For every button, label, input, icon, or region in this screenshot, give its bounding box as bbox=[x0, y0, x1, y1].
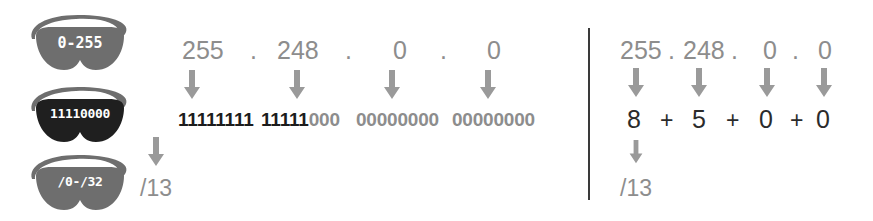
binary-bits-off-4: 00000000 bbox=[452, 109, 535, 130]
binary-bits-off-3: 00000000 bbox=[356, 109, 439, 130]
left-binary-octet-1: 11111111 bbox=[178, 110, 254, 129]
binary-bits-on-1: 11111111 bbox=[178, 109, 254, 130]
arrow-down-icon-octet-1 bbox=[182, 70, 202, 100]
panel-divider bbox=[588, 28, 590, 200]
arrow-down-icon-right-octet-2 bbox=[689, 68, 709, 98]
arrow-down-icon-right-octet-4 bbox=[814, 68, 834, 98]
goggles-icon-decimal-range: 0-255 bbox=[24, 12, 136, 74]
goggles-icon-binary: 11110000 bbox=[24, 84, 136, 146]
right-mask-separator-2: . bbox=[731, 38, 738, 63]
right-bit-count-3: 0 bbox=[759, 107, 773, 132]
goggles-label-prefix: /0-/32 bbox=[24, 174, 136, 189]
binary-bits-on-2: 11111 bbox=[261, 109, 309, 130]
right-operator-3: + bbox=[790, 109, 803, 132]
arrow-down-icon-right-octet-3 bbox=[757, 68, 777, 98]
goggles-icon-prefix: /0-/32 bbox=[24, 152, 136, 214]
right-operator-1: + bbox=[660, 109, 673, 132]
right-mask-octet-4: 0 bbox=[818, 38, 832, 63]
binary-bits-off-2: 000 bbox=[309, 109, 340, 130]
goggles-label-decimal-range: 0-255 bbox=[24, 34, 136, 52]
goggles-lens-icon bbox=[32, 166, 128, 212]
right-mask-separator-3: . bbox=[792, 38, 799, 63]
left-mask-octet-2: 248 bbox=[277, 38, 319, 63]
arrow-down-icon-right-result bbox=[628, 140, 644, 164]
diagram-canvas: 0-255 11110000 /0-/32 255 . 248 . 0 . 0 bbox=[0, 0, 873, 221]
left-binary-octet-2: 11111000 bbox=[261, 110, 340, 129]
left-mask-separator-3: . bbox=[440, 38, 447, 63]
right-operator-2: + bbox=[726, 109, 739, 132]
left-mask-octet-4: 0 bbox=[487, 38, 501, 63]
left-mask-separator-2: . bbox=[345, 38, 352, 63]
left-binary-octet-3: 00000000 bbox=[356, 110, 439, 129]
arrow-down-icon-octet-3 bbox=[382, 70, 402, 100]
goggles-label-binary: 11110000 bbox=[24, 106, 136, 121]
right-bit-count-1: 8 bbox=[627, 107, 641, 132]
right-mask-octet-1: 255 bbox=[620, 38, 662, 63]
left-mask-octet-3: 0 bbox=[393, 38, 407, 63]
arrow-down-icon-left-result bbox=[146, 137, 166, 167]
right-bit-count-2: 5 bbox=[692, 107, 706, 132]
right-bit-count-4: 0 bbox=[816, 107, 830, 132]
left-mask-octet-1: 255 bbox=[182, 38, 224, 63]
arrow-down-icon-octet-4 bbox=[478, 70, 498, 100]
right-result-prefix: /13 bbox=[620, 177, 652, 200]
right-mask-octet-2: 248 bbox=[683, 38, 725, 63]
left-mask-separator-1: . bbox=[250, 38, 257, 63]
arrow-down-icon-octet-2 bbox=[287, 70, 307, 100]
right-mask-octet-3: 0 bbox=[763, 38, 777, 63]
goggles-lens-icon bbox=[32, 98, 128, 144]
right-mask-separator-1: . bbox=[668, 38, 675, 63]
left-binary-octet-4: 00000000 bbox=[452, 110, 535, 129]
arrow-down-icon-right-octet-1 bbox=[626, 68, 646, 98]
left-result-prefix: /13 bbox=[140, 177, 172, 200]
